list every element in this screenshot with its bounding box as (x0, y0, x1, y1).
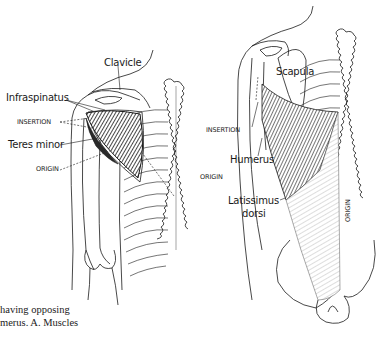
left-figure (60, 50, 188, 305)
label-origin-spine: ORIGIN (200, 174, 223, 181)
infraspinatus-muscle (86, 111, 143, 178)
label-humerus: Humerus (230, 155, 274, 165)
label-latissimus: Latissimus (228, 196, 279, 206)
label-infraspinatus: Infraspinatus (6, 93, 69, 103)
caption-line-1: having opposing (0, 305, 70, 316)
label-teres-minor: Teres minor (8, 140, 64, 150)
label-scapula: Scapula (276, 67, 314, 77)
label-insertion-right: INSERTION (206, 127, 240, 134)
label-origin-left: ORIGIN (36, 166, 59, 173)
label-dorsi: dorsi (242, 209, 266, 219)
caption-line-2: merus. A. Muscles (0, 318, 78, 329)
label-clavicle: Clavicle (104, 58, 141, 68)
label-insertion-left: INSERTION (17, 119, 51, 126)
label-origin-right: ORIGIN (345, 199, 352, 222)
